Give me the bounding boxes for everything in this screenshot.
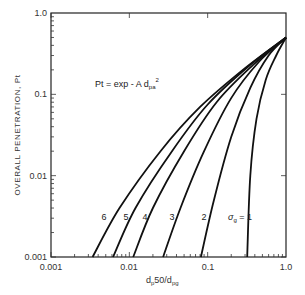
curve-label-1: σg = 1: [228, 212, 252, 223]
curve-label-5: 5: [123, 212, 128, 222]
x-tick-0.1: 0.1: [202, 262, 215, 272]
y-tick-0.01: 0.01: [29, 171, 47, 181]
x-tick-0.001: 0.001: [40, 262, 63, 272]
x-axis-title: dp50/dpg: [146, 275, 179, 286]
y-tick-0.001: 0.001: [24, 252, 47, 262]
curve-sigma-1: [247, 38, 286, 258]
curves: [93, 38, 286, 258]
curve-sigma-4: [133, 38, 286, 258]
x-tick-1: 1.0: [280, 262, 293, 272]
y-tick-1: 1.0: [34, 8, 47, 18]
y-axis-title: OVERALL PENETRATION, Pt: [13, 74, 22, 195]
curve-label-2: 2: [201, 212, 206, 222]
curve-label-6: 6: [101, 212, 106, 222]
penetration-chart: 1.0 0.1 0.01 0.001 0.001 0.01 0.1 1.0 OV…: [0, 0, 305, 295]
y-tick-0.1: 0.1: [34, 89, 47, 99]
x-tick-0.01: 0.01: [120, 262, 138, 272]
curve-sigma-3: [163, 38, 286, 258]
curve-sigma-6: [93, 38, 286, 258]
curve-label-3: 3: [169, 212, 174, 222]
curve-label-4: 4: [142, 212, 147, 222]
formula-annotation: Pt = exp - A dpa2: [95, 77, 159, 90]
